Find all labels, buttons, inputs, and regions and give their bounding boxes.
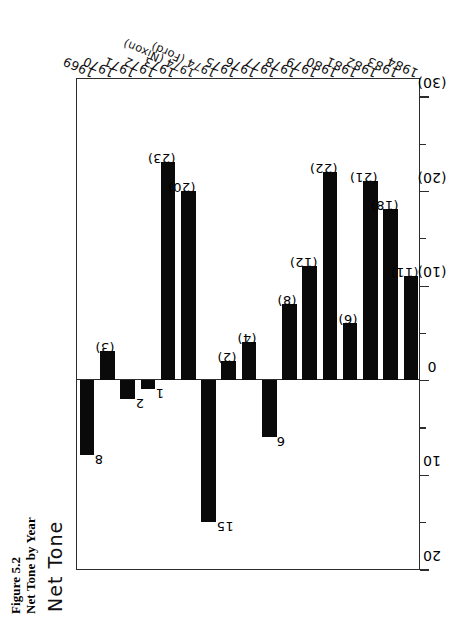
value-axis-label: 10 [423,453,441,469]
bar-value-label: (21) [350,170,378,185]
value-axis: 20100(10)(20)(30) [420,78,450,570]
bar-value-label: (18) [370,198,398,213]
bar-value-label: (22) [310,160,338,175]
value-axis-tick [420,428,426,429]
value-axis-tick [420,475,429,476]
figure-number: Figure 5.2 [8,517,23,614]
bar-value-label: 1 [155,386,164,401]
bar [323,172,338,380]
bar [343,323,358,380]
value-axis-label: (20) [418,170,447,186]
category-axis: 196919701971197219731974 (Nixon)1974 (Fo… [76,0,420,78]
plot-inner: 8(3)21(23)(20)15(2)(4)6(8)(12)(22)(6)(21… [77,79,419,569]
value-axis-tick [420,144,426,145]
bar-value-label: 8 [95,452,104,467]
figure-caption: Figure 5.2 Net Tone by Year [8,517,38,614]
bar [242,342,257,380]
value-axis-tick [420,191,429,192]
value-axis-tick [420,96,429,97]
bar-value-label: (3) [96,340,115,355]
bar [262,380,277,437]
value-axis-title: Net Tone [44,521,66,612]
bar-value-label: (23) [148,151,176,166]
plot-area: 8(3)21(23)(20)15(2)(4)6(8)(12)(22)(6)(21… [76,78,420,570]
value-axis-tick [420,333,426,334]
value-axis-label: (30) [418,75,447,91]
bar-value-label: 6 [277,433,286,448]
bar [404,276,419,380]
value-axis-label: (10) [418,264,447,280]
bar-value-label: (4) [237,330,256,345]
bar [100,351,115,379]
value-axis-tick [420,522,426,523]
value-axis-tick [420,569,429,570]
value-axis-label: 20 [423,548,441,564]
bar-value-label: 15 [216,518,233,533]
figure-title: Net Tone by Year [23,517,38,614]
bar-value-label: (11) [390,264,418,279]
bar [302,266,317,380]
bar-value-label: (6) [338,312,357,327]
value-axis-tick [420,286,429,287]
value-axis-label: 0 [428,359,437,375]
bar-value-label: (2) [217,349,236,364]
bar-value-label: 2 [135,395,144,410]
bar-value-label: (8) [278,293,297,308]
bar [80,380,95,456]
bar [141,380,156,389]
value-axis-tick [420,238,426,239]
value-axis-tick [420,380,429,381]
bar [201,380,216,522]
bar [161,162,176,380]
bar [383,209,398,379]
bar-value-label: (20) [168,179,196,194]
bar [181,191,196,380]
bar [120,380,135,399]
bar-value-label: (12) [289,255,317,270]
bar [282,304,297,380]
